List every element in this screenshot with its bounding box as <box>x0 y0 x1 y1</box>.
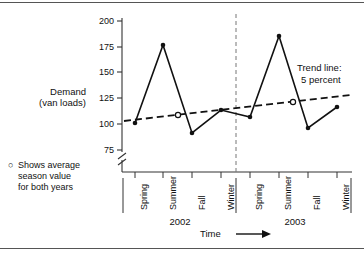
data-point-fall-2003 <box>306 126 311 131</box>
trend-line <box>124 95 350 121</box>
y-tick-label-150: 150 <box>88 67 114 78</box>
x-label-winter-2002: Winter <box>226 184 237 210</box>
trend-note-line2: 5 percent <box>301 74 341 86</box>
legend-line2: season value <box>18 171 71 183</box>
data-point-summer-2002 <box>161 43 166 48</box>
average-marker-2003 <box>290 99 295 104</box>
x-label-spring-2003: Spring <box>254 184 265 210</box>
x-label-winter-2003: Winter <box>341 184 352 210</box>
y-tick-label-100: 100 <box>88 119 114 130</box>
x-label-fall-2003: Fall <box>312 195 323 210</box>
x-group-label-2002: 2002 <box>150 216 210 227</box>
y-tick-label-175: 175 <box>88 42 114 53</box>
y-tick-label-200: 200 <box>88 16 114 27</box>
legend-line3: for both years <box>18 182 73 194</box>
y-tick-label-125: 125 <box>88 93 114 104</box>
y-axis-title-line1: Demand <box>18 86 86 98</box>
y-tick-label-75: 75 <box>88 145 114 156</box>
y-axis-title-line2: (van loads) <box>8 97 86 109</box>
x-label-spring-2002: Spring <box>139 184 150 210</box>
x-label-summer-2003: Summer <box>283 176 294 210</box>
x-label-fall-2002: Fall <box>197 195 208 210</box>
data-point-spring-2003 <box>248 115 253 120</box>
legend-line1: Shows average <box>18 160 80 172</box>
legend-marker-icon: ○ <box>8 160 13 172</box>
data-point-summer-2003 <box>277 34 282 39</box>
x-label-summer-2002: Summer <box>168 176 179 210</box>
time-arrow-head <box>262 230 271 238</box>
x-group-label-2003: 2003 <box>265 216 325 227</box>
x-axis-title: Time <box>200 228 221 239</box>
data-point-spring-2002 <box>133 121 138 126</box>
data-point-winter-2003 <box>335 105 340 110</box>
average-marker-2002 <box>175 112 180 117</box>
data-point-winter-2002 <box>219 108 224 113</box>
chart-page: 200 175 150 125 100 75 Demand (van loads… <box>0 0 364 253</box>
trend-note-line1: Trend line: <box>297 62 342 74</box>
data-point-fall-2002 <box>190 131 195 136</box>
